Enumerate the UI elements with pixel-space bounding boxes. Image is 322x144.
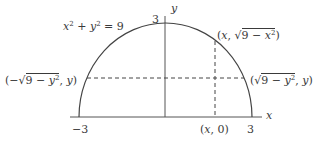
eq-rhs: 9 [117,20,124,33]
top-point-label: (x, √9 − x2) [217,27,280,42]
ap-close: ) [225,123,229,136]
tp-comma: , [228,29,235,42]
tp-close: ) [275,29,279,42]
lp-radicand: 9 − y2 [26,73,60,87]
lp-close: ) [73,74,77,87]
rp-rad-minus: − [268,74,284,87]
y-axis-label: y [171,3,177,15]
right-point-label: (√9 − y2, y) [250,72,313,87]
circle-equation-label: x2 + y2 = 9 [63,18,124,33]
lp-rad-num: 9 [26,74,33,87]
rp-close: ) [308,74,312,87]
ap-comma: , [211,123,218,136]
x-tick-right: 3 [247,124,254,136]
axis-point-label: (x, 0) [200,124,229,136]
eq-plus: + [74,20,90,33]
lp-open: (− [5,74,19,87]
left-point-label: (−√9 − y2, y) [5,72,77,87]
x-axis-label: x [266,110,272,122]
ap-zero: 0 [218,123,225,136]
rp-radicand: 9 − y2 [261,73,295,87]
tp-rad-minus: − [249,29,265,42]
eq-equals: = [101,20,117,33]
lp-rad-minus: − [33,74,49,87]
y-tick-top: 3 [152,14,159,26]
tp-radicand: 9 − x2 [242,28,276,42]
sqrt-sign: √ [19,74,26,87]
x-tick-left: −3 [72,124,88,136]
sqrt-sign: √ [235,29,242,42]
tp-rad-num: 9 [242,29,249,42]
